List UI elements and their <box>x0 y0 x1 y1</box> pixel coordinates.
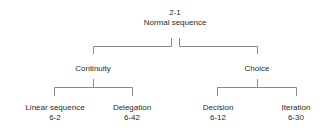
continuity-label: Continuity <box>75 64 111 74</box>
connector-continuity-bar <box>55 88 133 97</box>
leaf-code: 6-12 <box>203 113 234 123</box>
connector-root-right <box>180 38 258 54</box>
leaf-decision: Decision 6-12 <box>203 103 234 123</box>
connector-root-left <box>94 38 172 54</box>
root-node: 2-1 Normal sequence <box>144 8 207 28</box>
choice-label: Choice <box>245 64 270 74</box>
root-label: Normal sequence <box>144 18 207 28</box>
leaf-label: Decision <box>203 103 234 113</box>
leaf-iteration: Iteration 6-30 <box>282 103 311 123</box>
leaf-label: Iteration <box>282 103 311 113</box>
leaf-label: Linear sequence <box>25 103 84 113</box>
node-choice: Choice <box>245 64 270 74</box>
leaf-code: 6-2 <box>25 113 84 123</box>
connector-choice-bar <box>218 88 297 97</box>
leaf-code: 6-42 <box>113 113 151 123</box>
leaf-delegation: Delegation 6-42 <box>113 103 151 123</box>
leaf-code: 6-30 <box>282 113 311 123</box>
node-continuity: Continuity <box>75 64 111 74</box>
leaf-label: Delegation <box>113 103 151 113</box>
root-code: 2-1 <box>144 8 207 18</box>
leaf-linear-sequence: Linear sequence 6-2 <box>25 103 84 123</box>
